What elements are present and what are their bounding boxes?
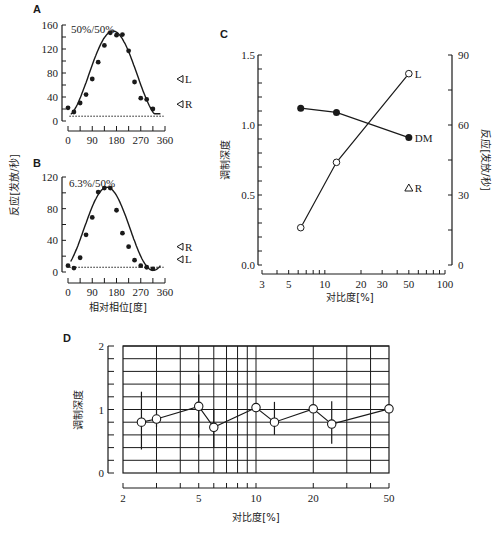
data-point [144,265,149,270]
x-tick-label: 20 [308,492,320,504]
filled-circle-marker-icon [297,105,304,112]
left-y-tick-label: 0.0 [241,259,255,271]
data-point [90,77,95,82]
data-point [96,60,101,65]
marker-label: R [185,98,193,110]
d-x-axis-title: 对比度[%] [232,511,279,523]
open-circle-marker-icon [385,405,393,413]
data-point [138,96,143,101]
data-point [66,263,71,268]
open-circle-marker-icon [406,70,413,77]
data-point [120,32,125,37]
right-y-tick-label: 90 [458,49,470,61]
data-point [126,244,131,249]
x-tick-label: 360 [157,286,174,298]
data-point [108,186,113,191]
data-point [144,97,149,102]
x-tick-label: 180 [108,134,125,146]
c-left-y-axis-title: 调制深度 [219,140,231,180]
open-circle-marker-icon [152,415,160,423]
x-tick-label: 10 [319,278,331,290]
data-point [78,255,83,260]
y-tick-label: 160 [42,19,59,31]
open-circle-marker-icon [270,418,278,426]
data-point [102,186,107,191]
panel-label-d: D [63,332,71,344]
open-circle-marker-icon [252,403,260,411]
marker-label: L [185,73,192,85]
x-tick-label: 270 [133,134,150,146]
panel-label-c: C [220,28,228,40]
x-tick-label: 270 [133,286,150,298]
x-tick-label: 20 [356,278,368,290]
x-tick-label: 3 [259,278,265,290]
x-tick-label: 100 [437,278,454,290]
y-tick-label: 1 [99,404,105,416]
y-tick-label: 0 [53,115,59,127]
triangle-marker-icon [177,243,183,250]
data-point [132,80,137,85]
marker-label: R [185,241,193,253]
data-point [150,107,155,112]
y-tick-label: 80 [47,67,59,79]
x-tick-label: 90 [87,286,99,298]
fit-curve [71,187,161,270]
x-tick-label: 180 [108,286,125,298]
data-point [126,48,131,53]
data-point [114,33,119,38]
data-point [84,232,89,237]
triangle-marker-icon [177,76,183,83]
open-circle-marker-icon [333,159,340,166]
filled-circle-marker-icon [405,134,412,141]
panel-label-b: B [33,157,41,169]
panel-d-chart: 01225102050 [99,340,396,504]
c-x-axis-title: 对比度[%] [326,291,373,303]
y-tick-label: 120 [42,43,59,55]
x-tick-label: 50 [384,492,396,504]
panel-label-a: A [33,3,41,15]
y-tick-label: 40 [47,234,59,246]
ab-x-axis-title: 相对相位[度] [89,301,147,313]
x-tick-label: 0 [65,286,71,298]
left-y-tick-label: 1.5 [241,49,255,61]
x-tick-label: 30 [377,278,389,290]
left-y-tick-label: 0.5 [241,189,255,201]
x-tick-label: 90 [87,134,99,146]
marker-label: L [185,253,192,265]
panel-b-chart: 04080120090180270360RL [42,171,194,298]
x-tick-label: 50 [403,278,415,290]
x-tick-label: 5 [286,278,292,290]
y-tick-label: 120 [42,171,59,183]
x-tick-label: 10 [251,492,263,504]
y-tick-label: 40 [47,91,59,103]
d-y-axis-title: 调制深度 [72,390,84,430]
x-tick-label: 360 [157,134,174,146]
data-point [108,30,113,35]
panel-a-chart: 04080120160090180270360LR [42,19,194,146]
data-point [72,110,77,115]
data-point [120,231,125,236]
open-triangle-marker-icon [405,184,413,191]
y-tick-label: 0 [99,467,105,479]
open-circle-marker-icon [328,420,336,428]
data-point [102,43,107,48]
x-tick-label: 5 [196,492,202,504]
open-circle-marker-icon [137,418,145,426]
data-point [132,258,137,263]
panel-c-chart: 0.00.51.01.503060903510203050100LDMR [241,49,469,290]
data-point [66,105,71,110]
data-point [72,266,77,271]
open-circle-marker-icon [309,405,317,413]
triangle-marker-icon [177,101,183,108]
data-point [84,92,89,97]
x-tick-label: 2 [120,492,126,504]
open-circle-marker-icon [210,423,218,431]
left-y-tick-label: 1.0 [241,119,255,131]
filled-circle-marker-icon [333,109,340,116]
figure-canvas: A B C D 50%/50% 6.3%/50% 反应[发放/秒] 相对相位[度… [0,0,498,533]
right-y-tick-label: 60 [458,119,470,131]
c-right-y-axis-title: 反应[发放/秒] [480,129,492,190]
data-point [90,215,95,220]
data-point [78,101,83,106]
series-label-r: R [415,182,423,194]
